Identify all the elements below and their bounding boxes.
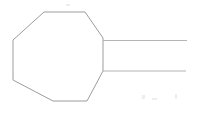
scan-speck-4 [66,4,70,6]
drawing-canvas [0,0,198,117]
scan-speck-3 [175,94,177,99]
scan-speck-1 [142,95,145,99]
scan-speck-2 [152,98,157,100]
canvas-background [0,0,198,117]
line-drawing-figure [0,0,198,117]
